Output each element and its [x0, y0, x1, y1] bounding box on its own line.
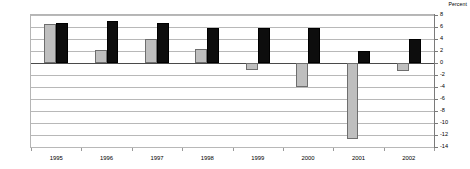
category-label-1995: 1995: [50, 155, 63, 161]
value-axis-tick: [434, 39, 438, 40]
value-axis-label: -8: [440, 108, 445, 114]
bar-series-b-1999: [258, 28, 270, 63]
value-axis-tick: [434, 51, 438, 52]
axis-unit-caption: Percent: [448, 1, 467, 7]
value-axis-label: -10: [440, 120, 448, 126]
value-axis-label: 0: [440, 60, 443, 66]
value-axis-tick: [434, 123, 438, 124]
category-axis-tick: [333, 148, 334, 151]
bar-chart: Percent 86420-2-4-6-8-10-12-14 199519961…: [0, 0, 470, 169]
bars-layer: [31, 15, 434, 147]
value-axis-label: -2: [440, 72, 445, 78]
category-axis-tick: [283, 148, 284, 151]
bar-series-b-1996: [107, 21, 119, 63]
value-axis-tick: [434, 135, 438, 136]
category-label-2001: 2001: [352, 155, 365, 161]
value-axis-label: 6: [440, 24, 443, 30]
bar-series-a-1997: [145, 39, 157, 63]
category-label-1997: 1997: [150, 155, 163, 161]
value-axis-tick: [434, 111, 438, 112]
value-axis-label: -14: [440, 144, 448, 150]
category-label-1996: 1996: [100, 155, 113, 161]
category-axis-tick: [434, 148, 435, 151]
category-label-2002: 2002: [402, 155, 415, 161]
bar-series-b-2000: [308, 28, 320, 63]
bar-series-a-1999: [246, 63, 258, 70]
category-axis: 19951996199719981999200020012002: [30, 148, 434, 169]
bar-series-a-1995: [44, 24, 56, 63]
bar-series-b-2001: [358, 51, 370, 63]
value-axis-label: 8: [440, 12, 443, 18]
category-axis-tick: [81, 148, 82, 151]
value-axis-label: 2: [440, 48, 443, 54]
category-axis-tick: [31, 148, 32, 151]
value-axis-tick: [434, 15, 438, 16]
category-axis-tick: [132, 148, 133, 151]
value-axis-label: -4: [440, 84, 445, 90]
value-axis-tick: [434, 27, 438, 28]
bar-series-a-1996: [95, 50, 107, 63]
value-axis-tick: [434, 63, 438, 64]
value-axis-tick: [434, 75, 438, 76]
value-axis: 86420-2-4-6-8-10-12-14: [434, 14, 470, 148]
bar-series-b-1995: [56, 23, 68, 63]
category-axis-tick: [384, 148, 385, 151]
bar-series-b-1998: [207, 28, 219, 63]
bar-series-b-1997: [157, 23, 169, 63]
value-axis-line: [434, 14, 435, 148]
bar-series-a-1998: [195, 49, 207, 63]
category-label-1998: 1998: [201, 155, 214, 161]
category-label-2000: 2000: [301, 155, 314, 161]
bar-series-a-2002: [397, 63, 409, 71]
category-axis-tick: [233, 148, 234, 151]
value-axis-tick: [434, 99, 438, 100]
category-axis-tick: [182, 148, 183, 151]
bar-series-a-2001: [347, 63, 359, 139]
value-axis-label: 4: [440, 36, 443, 42]
value-axis-label: -6: [440, 96, 445, 102]
value-axis-label: -12: [440, 132, 448, 138]
category-label-1999: 1999: [251, 155, 264, 161]
bar-series-a-2000: [296, 63, 308, 87]
bar-series-b-2002: [409, 39, 421, 63]
value-axis-tick: [434, 87, 438, 88]
